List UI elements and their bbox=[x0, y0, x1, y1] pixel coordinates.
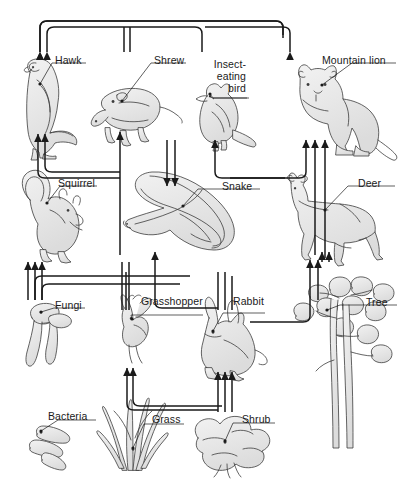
label-rabbit: Rabbit bbox=[233, 296, 264, 308]
label-grasshopper: Grasshopper bbox=[141, 296, 203, 308]
label-squirrel: Squirrel bbox=[58, 178, 95, 190]
organism-shrew-illustration bbox=[91, 88, 182, 146]
organism-mountain-lion-illustration bbox=[299, 65, 397, 160]
label-deer: Deer bbox=[358, 178, 381, 190]
label-grass: Grass bbox=[152, 414, 181, 426]
organism-snake-illustration bbox=[123, 172, 234, 250]
organism-fungi-illustration bbox=[26, 303, 71, 366]
label-tree: Tree bbox=[366, 297, 388, 309]
label-insect-eating-bird-line2: eating bbox=[176, 71, 246, 83]
food-web-diagram: Hawk Shrew Insect- eating bird Mountain … bbox=[0, 0, 401, 493]
organism-grass-illustration bbox=[97, 398, 168, 470]
label-hawk: Hawk bbox=[55, 55, 82, 67]
organism-bacteria-illustration bbox=[29, 426, 69, 470]
label-fungi: Fungi bbox=[55, 300, 82, 312]
label-mountain-lion: Mountain lion bbox=[322, 55, 386, 67]
organism-hawk-illustration bbox=[24, 59, 76, 160]
label-bacteria: Bacteria bbox=[48, 411, 87, 423]
label-shrub: Shrub bbox=[242, 414, 271, 426]
label-snake: Snake bbox=[222, 181, 252, 193]
label-insect-eating-bird-line1: Insect- bbox=[176, 59, 246, 71]
label-insect-eating-bird-line3: bird bbox=[176, 83, 246, 95]
organism-shrub-illustration bbox=[195, 416, 270, 478]
organism-rabbit-illustration bbox=[201, 297, 267, 381]
